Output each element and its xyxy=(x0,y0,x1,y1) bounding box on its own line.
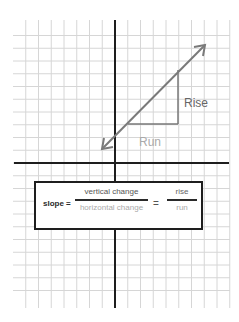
equals-sign: = xyxy=(153,198,159,209)
vertical-change-numerator: vertical change xyxy=(75,187,148,197)
change-fraction: vertical change horizontal change xyxy=(75,187,148,213)
rise-label: Rise xyxy=(184,96,208,110)
slope-equals-label: slope = xyxy=(43,199,71,208)
rise-run-fraction: rise run xyxy=(167,187,197,213)
run-denominator: run xyxy=(167,203,197,213)
coordinate-grid-diagram xyxy=(0,0,239,322)
fraction-bar xyxy=(75,199,148,201)
fraction-bar xyxy=(167,199,197,201)
horizontal-change-denominator: horizontal change xyxy=(75,203,148,213)
slope-formula-box: slope = vertical change horizontal chang… xyxy=(34,181,203,230)
run-label: Run xyxy=(139,135,161,149)
rise-numerator: rise xyxy=(167,187,197,197)
